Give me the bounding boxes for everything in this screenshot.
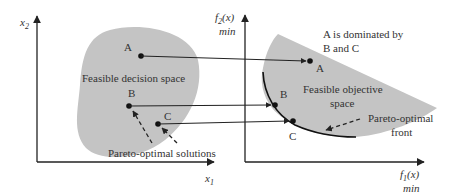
- feasible-decision-region: [77, 27, 199, 157]
- objective-point-c: [290, 118, 296, 124]
- point-c-label: C: [164, 110, 171, 122]
- f2-axis-label: f2(x): [215, 11, 235, 26]
- objective-point-a-label: A: [316, 62, 324, 74]
- f2-axis-min: min: [219, 25, 236, 37]
- objective-point-b: [272, 102, 278, 108]
- feasible-objective-space-label-line1: Feasible objective: [303, 83, 383, 95]
- pareto-optimal-front-label-line1: Pareto-optimal: [368, 112, 433, 124]
- point-b-label: B: [128, 87, 135, 99]
- decision-space-panel: x2 x1 Feasible decision space A B C Pare…: [19, 16, 216, 187]
- objective-point-c-label: C: [289, 130, 296, 142]
- pareto-optimal-solutions-label: Pareto-optimal solutions: [108, 147, 216, 159]
- x2-axis-label: x2: [19, 16, 29, 31]
- feasible-objective-space-label-line2: space: [330, 97, 355, 109]
- x1-axis-label: x1: [204, 172, 214, 187]
- objective-point-a: [307, 58, 313, 64]
- feasible-decision-space-label: Feasible decision space: [82, 72, 185, 84]
- pareto-optimal-front-label-line2: front: [391, 126, 412, 138]
- point-a-label: A: [124, 41, 132, 53]
- objective-point-b-label: B: [280, 88, 287, 100]
- dominance-note-line2: B and C: [323, 42, 359, 54]
- f1-axis-min: min: [403, 182, 420, 194]
- pareto-diagram: x2 x1 Feasible decision space A B C Pare…: [0, 0, 454, 196]
- objective-space-panel: f2(x) min f1(x) min A is dominated by B …: [215, 11, 437, 194]
- f1-axis-label: f1(x): [400, 168, 420, 183]
- dominance-note-line1: A is dominated by: [323, 28, 404, 40]
